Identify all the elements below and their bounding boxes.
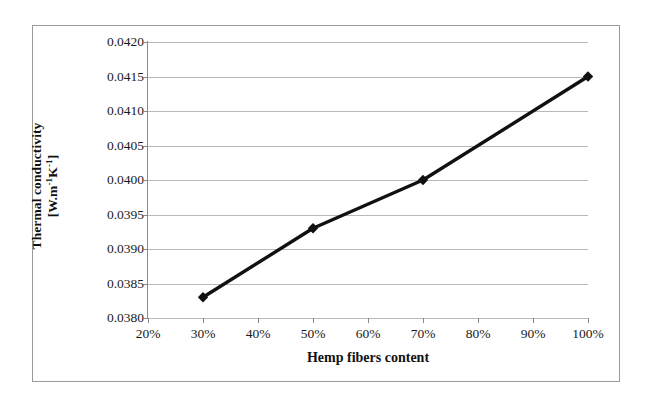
y-unit-prefix: [W.m [45,186,60,218]
y-axis-tick-label: 0.0400 [86,172,144,188]
plot-area [148,42,588,318]
y-axis-tick-label: 0.0380 [86,310,144,326]
x-axis-tick-label: 100% [553,326,623,342]
y-unit-exponent-2: -1 [44,159,54,167]
y-axis-tick-label: 0.0420 [86,34,144,50]
data-series-svg [148,42,588,318]
x-axis-title: Hemp fibers content [148,350,588,366]
y-axis-tick-labels: 0.03800.03850.03900.03950.04000.04050.04… [86,36,144,318]
y-axis-tick-label: 0.0405 [86,138,144,154]
y-unit-suffix: ] [45,155,60,160]
x-tick-mark [533,318,534,323]
y-axis-title-line1: Thermal conductivity [29,123,44,250]
y-unit-mid: K [45,167,60,178]
y-axis-tick-label: 0.0385 [86,276,144,292]
y-axis-title-units: [W.m-1K-1] [45,61,61,311]
x-tick-mark [478,318,479,323]
series-line [203,77,588,298]
x-tick-mark [258,318,259,323]
y-axis-tick-label: 0.0390 [86,241,144,257]
y-axis-tick-label: 0.0410 [86,103,144,119]
y-unit-exponent-1: -1 [44,178,54,186]
x-axis-tick-labels: 20%30%40%50%60%70%80%90%100% [148,326,588,348]
x-tick-mark [148,318,149,323]
y-axis-tick-label: 0.0415 [86,69,144,85]
x-tick-mark [203,318,204,323]
y-axis-title: Thermal conductivity [W.m-1K-1] [29,61,69,311]
x-tick-mark [423,318,424,323]
chart-figure: Thermal conductivity [W.m-1K-1] 0.03800.… [0,0,650,408]
y-axis-tick-label: 0.0395 [86,207,144,223]
x-tick-mark [588,318,589,323]
x-tick-mark [368,318,369,323]
series-markers [198,71,593,302]
x-tick-mark [313,318,314,323]
